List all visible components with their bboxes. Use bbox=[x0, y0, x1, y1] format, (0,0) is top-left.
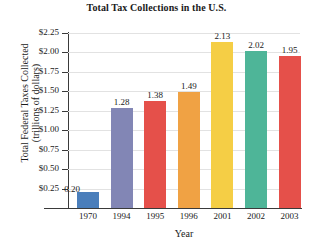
y-tick-label: $0.75 bbox=[9, 145, 59, 154]
y-tick-label: $1.00 bbox=[9, 125, 59, 134]
bar[interactable] bbox=[211, 42, 233, 208]
chart-title: Total Tax Collections in the U.S. bbox=[0, 2, 313, 13]
chart-container: Total Tax Collections in the U.S. Total … bbox=[0, 0, 313, 248]
bar[interactable] bbox=[77, 192, 99, 208]
y-tick-label: $1.75 bbox=[9, 67, 59, 76]
y-tick-label: $1.25 bbox=[9, 106, 59, 115]
bar-value-label: 1.95 bbox=[268, 46, 312, 55]
bar-slot: 1.28 bbox=[106, 33, 138, 208]
plot-area: 0.201.281.381.492.132.021.95 bbox=[68, 33, 300, 208]
bar-slot: 1.49 bbox=[173, 33, 205, 208]
bar-value-label: 1.28 bbox=[100, 98, 144, 107]
y-tick-label: $2.25 bbox=[9, 28, 59, 37]
bar-slot: 2.02 bbox=[240, 33, 272, 208]
bar-slot: 0.20 bbox=[72, 33, 104, 208]
bar-value-label: 1.49 bbox=[167, 82, 211, 91]
bar[interactable] bbox=[245, 51, 267, 208]
y-tick-label: $2.00 bbox=[9, 47, 59, 56]
bar-value-label: 0.20 bbox=[46, 185, 80, 194]
bar-slot: 1.95 bbox=[274, 33, 306, 208]
x-axis-label: Year bbox=[68, 228, 300, 239]
bar-slot: 2.13 bbox=[206, 33, 238, 208]
bar[interactable] bbox=[111, 108, 133, 208]
x-axis-line bbox=[44, 208, 302, 209]
y-tick-label: $0.50 bbox=[9, 164, 59, 173]
y-tick-label: $1.50 bbox=[9, 86, 59, 95]
bar[interactable] bbox=[279, 56, 301, 208]
bar-slot: 1.38 bbox=[139, 33, 171, 208]
bar[interactable] bbox=[144, 101, 166, 208]
bar[interactable] bbox=[178, 92, 200, 208]
x-tick-label: 2003 bbox=[270, 211, 310, 221]
bar-value-label: 1.38 bbox=[133, 91, 177, 100]
